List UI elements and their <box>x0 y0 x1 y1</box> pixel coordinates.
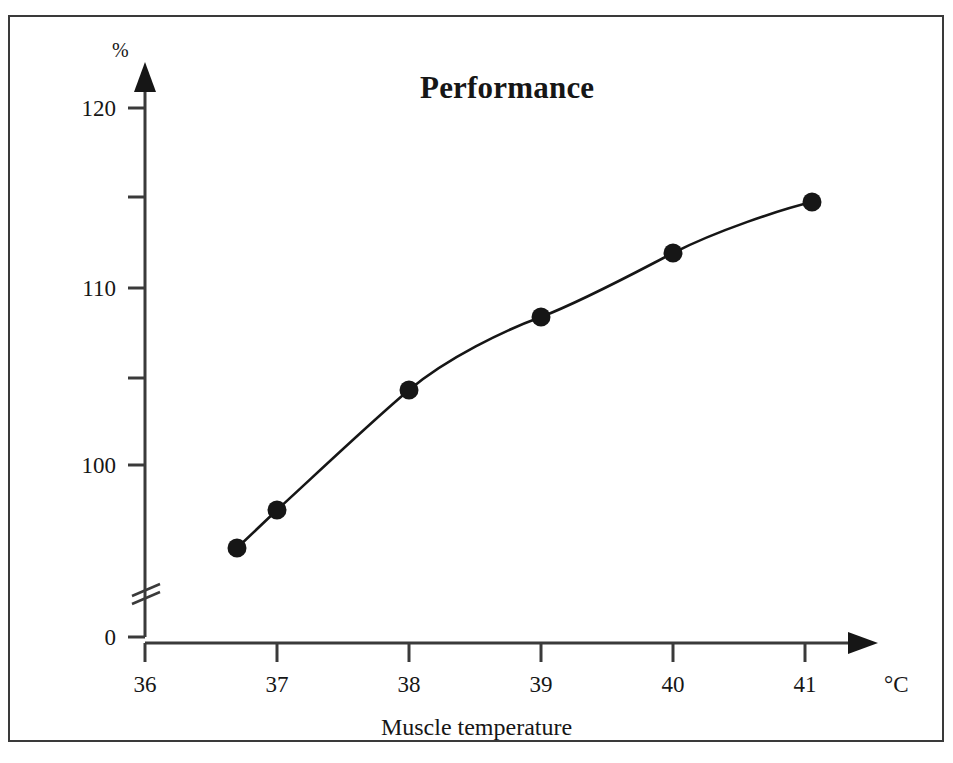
performance-curve <box>237 202 812 548</box>
y-axis-unit-label: % <box>112 40 129 60</box>
x-axis-unit-label: °C <box>884 673 909 696</box>
chart-title: Performance <box>420 72 594 103</box>
data-point-marker <box>268 501 287 520</box>
data-point-marker <box>803 193 822 212</box>
data-point-marker <box>400 381 419 400</box>
x-tick-label-39: 39 <box>511 673 571 696</box>
y-axis-arrowhead <box>134 62 156 92</box>
data-point-marker <box>664 244 683 263</box>
x-tick-label-41: 41 <box>775 673 835 696</box>
x-axis-title: Muscle temperature <box>0 715 953 739</box>
x-tick-label-37: 37 <box>247 673 307 696</box>
data-point-marker <box>532 308 551 327</box>
y-tick-label-120: 120 <box>62 97 116 120</box>
y-tick-label-0: 0 <box>62 626 116 649</box>
chart-page: Performance % 120 110 100 0 36 37 38 39 … <box>0 0 953 763</box>
x-axis-arrowhead <box>848 632 878 654</box>
x-tick-label-38: 38 <box>379 673 439 696</box>
data-point-marker <box>228 539 247 558</box>
y-tick-label-100: 100 <box>62 454 116 477</box>
performance-line-chart <box>0 0 953 763</box>
x-tick-label-40: 40 <box>643 673 703 696</box>
y-tick-label-110: 110 <box>62 277 116 300</box>
x-tick-label-36: 36 <box>115 673 175 696</box>
